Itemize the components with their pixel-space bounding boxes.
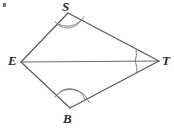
segment-TB — [70, 61, 159, 108]
vertex-label-T: T — [162, 54, 170, 67]
vertex-label-S: S — [62, 0, 69, 13]
geometry-figure: E S T B — [0, 0, 174, 129]
corner-artifact-mark — [3, 3, 6, 7]
geometry-canvas — [0, 0, 174, 129]
angle-mark-T-upper — [135, 49, 136, 62]
segment-ES — [21, 13, 68, 62]
vertex-label-B: B — [63, 112, 72, 125]
quadrilateral-outline — [21, 13, 159, 108]
segment-BE — [21, 62, 70, 108]
vertex-label-E: E — [8, 54, 17, 67]
segment-ET-diagonal — [21, 61, 159, 62]
angle-mark-T-lower — [135, 61, 137, 74]
